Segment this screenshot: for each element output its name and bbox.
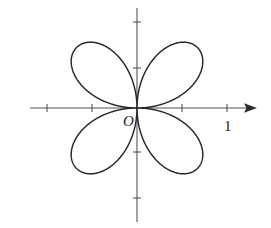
x-axis-unit-label: 1 <box>224 118 232 134</box>
origin-label: O <box>123 113 134 129</box>
polar-rose-plot: O 1 <box>0 0 271 228</box>
figure-canvas: O 1 <box>0 0 271 228</box>
